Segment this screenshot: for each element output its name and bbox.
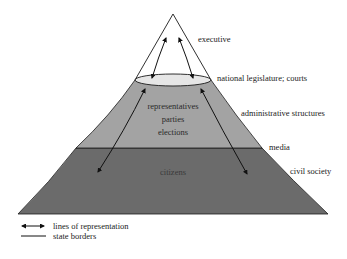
- representatives-label: representatives: [148, 101, 199, 111]
- executive-label: executive: [198, 34, 231, 44]
- executive-triangle: [135, 14, 211, 80]
- legend-representation-label: lines of representation: [53, 221, 129, 231]
- elections-label: elections: [158, 127, 188, 137]
- pyramid-diagram: representatives parties elections citize…: [0, 0, 347, 259]
- legend-borders-label: state borders: [53, 231, 96, 241]
- administrative-label: administrative structures: [241, 108, 325, 118]
- parties-label: parties: [162, 114, 185, 124]
- legend: lines of representation state borders: [21, 221, 129, 241]
- media-label: media: [269, 142, 290, 152]
- legislature-label: national legislature; courts: [217, 73, 307, 83]
- civil-society-band: [18, 148, 328, 214]
- citizens-label: citizens: [160, 167, 186, 177]
- civil-society-label: civil society: [290, 166, 332, 176]
- legislature-ellipse: [135, 74, 211, 86]
